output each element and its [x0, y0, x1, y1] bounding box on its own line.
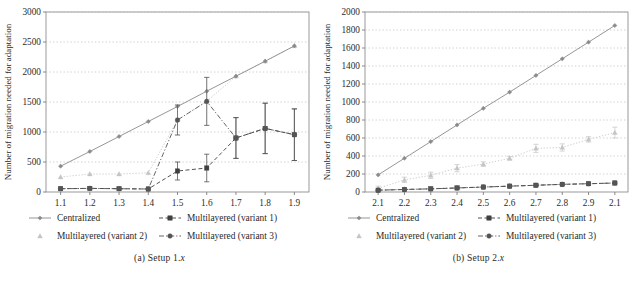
- y-tick-label: 500: [27, 157, 41, 167]
- chart-panel-b: 02004006008001000120014001600180020002.1…: [319, 0, 638, 281]
- legend-entry[interactable]: Multilayered (variant 3): [478, 231, 596, 242]
- x-tick-label: 2.2: [399, 198, 411, 208]
- circle-marker: [481, 185, 486, 190]
- legend-entry[interactable]: Multilayered (variant 1): [478, 213, 596, 224]
- circle-marker: [292, 132, 297, 137]
- x-tick-label: 1.5: [172, 198, 184, 208]
- circle-marker: [560, 182, 565, 187]
- circle-marker: [234, 136, 239, 141]
- chart-b-body: 02004006008001000120014001600180020002.1…: [319, 0, 638, 255]
- circle-marker: [168, 234, 173, 239]
- circle-marker: [88, 186, 93, 191]
- legend-label: Centralized: [57, 213, 101, 223]
- legend-label: Centralized: [376, 213, 420, 223]
- circle-marker: [58, 186, 63, 191]
- chart-panel-a: 0500100015002000250030001.11.21.31.41.51…: [0, 0, 319, 281]
- circle-marker: [175, 118, 180, 123]
- y-tick-label: 1800: [341, 25, 360, 35]
- legend-label: Multilayered (variant 2): [57, 231, 147, 242]
- circle-marker: [402, 187, 407, 192]
- x-tick-label: 2.7: [530, 198, 542, 208]
- x-tick-label: 1.7: [230, 198, 242, 208]
- legend-entry[interactable]: Centralized: [348, 213, 420, 223]
- x-tick-label: 2.1: [609, 198, 621, 208]
- y-axis-title: Number of migration needed for adaptatio…: [3, 23, 13, 180]
- x-tick-label: 1.3: [113, 198, 125, 208]
- y-tick-label: 1000: [341, 97, 360, 107]
- x-tick-label: 1.1: [55, 198, 67, 208]
- x-tick-label: 2.6: [504, 198, 516, 208]
- x-tick-label: 1.9: [289, 198, 301, 208]
- legend-entry[interactable]: Multilayered (variant 2): [357, 231, 466, 242]
- x-tick-label: 2.4: [451, 198, 463, 208]
- legend-label: Multilayered (variant 3): [187, 231, 277, 242]
- chart-a-body: 0500100015002000250030001.11.21.31.41.51…: [0, 0, 319, 255]
- x-tick-label: 2.1: [372, 198, 384, 208]
- legend-entry[interactable]: Centralized: [29, 213, 101, 223]
- x-tick-label: 2.9: [583, 198, 595, 208]
- x-tick-label: 1.6: [201, 198, 213, 208]
- y-tick-label: 2000: [341, 7, 360, 17]
- legend-entry[interactable]: Multilayered (variant 3): [159, 231, 277, 242]
- y-tick-label: 200: [346, 169, 360, 179]
- legend-label: Multilayered (variant 1): [187, 213, 277, 224]
- y-tick-label: 1000: [22, 127, 41, 137]
- diamond-marker: [38, 216, 42, 220]
- legend-label: Multilayered (variant 3): [506, 231, 596, 242]
- circle-marker: [487, 234, 492, 239]
- legend-entry[interactable]: Multilayered (variant 2): [38, 231, 147, 242]
- y-tick-label: 800: [346, 115, 360, 125]
- y-tick-label: 0: [355, 187, 360, 197]
- y-tick-label: 600: [346, 133, 360, 143]
- legend-entry[interactable]: Multilayered (variant 1): [159, 213, 277, 224]
- x-tick-label: 1.2: [84, 198, 96, 208]
- y-tick-label: 0: [36, 187, 41, 197]
- legend-label: Multilayered (variant 1): [506, 213, 596, 224]
- y-tick-label: 2500: [22, 37, 41, 47]
- circle-marker: [376, 188, 381, 193]
- square-marker: [168, 216, 172, 220]
- chart-a-svg: 0500100015002000250030001.11.21.31.41.51…: [0, 0, 319, 255]
- circle-marker: [507, 184, 512, 189]
- circle-marker: [204, 99, 209, 104]
- circle-marker: [146, 187, 151, 192]
- chart-b-svg: 02004006008001000120014001600180020002.1…: [319, 0, 638, 255]
- y-tick-label: 1200: [341, 79, 360, 89]
- y-axis-title: Number of migration needed for adaptatio…: [322, 23, 332, 180]
- y-tick-label: 400: [346, 151, 360, 161]
- circle-marker: [534, 183, 539, 188]
- x-tick-label: 2.3: [425, 198, 437, 208]
- x-tick-label: 2.5: [478, 198, 490, 208]
- triangle-marker: [38, 234, 43, 238]
- y-tick-label: 1500: [22, 97, 41, 107]
- triangle-marker: [357, 234, 362, 238]
- legend-label: Multilayered (variant 2): [376, 231, 466, 242]
- circle-marker: [428, 187, 433, 192]
- x-tick-label: 1.8: [259, 198, 271, 208]
- x-tick-label: 1.4: [142, 198, 154, 208]
- square-marker: [175, 169, 179, 173]
- y-tick-label: 3000: [22, 7, 41, 17]
- circle-marker: [263, 126, 268, 131]
- figure-container: 0500100015002000250030001.11.21.31.41.51…: [0, 0, 639, 281]
- square-marker: [205, 166, 209, 170]
- circle-marker: [455, 186, 460, 191]
- y-tick-label: 1600: [341, 43, 360, 53]
- x-tick-label: 2.8: [556, 198, 568, 208]
- y-tick-label: 2000: [22, 67, 41, 77]
- circle-marker: [117, 186, 122, 191]
- circle-marker: [613, 181, 618, 186]
- y-tick-label: 1400: [341, 61, 360, 71]
- diamond-marker: [357, 216, 361, 220]
- square-marker: [487, 216, 491, 220]
- circle-marker: [586, 181, 591, 186]
